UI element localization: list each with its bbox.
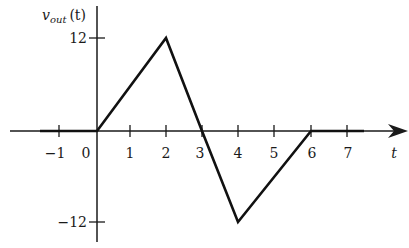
x-tick-label: 4 bbox=[234, 145, 243, 161]
x-tick-label: 5 bbox=[270, 145, 279, 161]
y-tick-label-12: 12 bbox=[69, 30, 87, 46]
v-axis-label-sub: out bbox=[50, 14, 67, 25]
x-tick-label: 1 bbox=[126, 145, 135, 161]
waveform-plot: −1 0 1 2 3 4 5 6 7 12 −12 t vout(t) bbox=[0, 0, 409, 248]
x-tick-label: 2 bbox=[162, 145, 171, 161]
v-axis-label: vout(t) bbox=[42, 7, 86, 25]
y-tick-label-neg12: −12 bbox=[57, 214, 87, 230]
v-axis-label-main: v bbox=[42, 7, 50, 23]
vout-waveform bbox=[40, 38, 364, 222]
x-tick-label: 3 bbox=[196, 145, 205, 161]
x-tick-label: 0 bbox=[82, 145, 91, 161]
x-tick-label: −1 bbox=[45, 145, 66, 161]
x-tick-label: 6 bbox=[308, 145, 317, 161]
x-tick-label: 7 bbox=[344, 145, 353, 161]
t-axis-label: t bbox=[391, 145, 397, 161]
v-axis-label-arg: (t) bbox=[69, 7, 86, 23]
